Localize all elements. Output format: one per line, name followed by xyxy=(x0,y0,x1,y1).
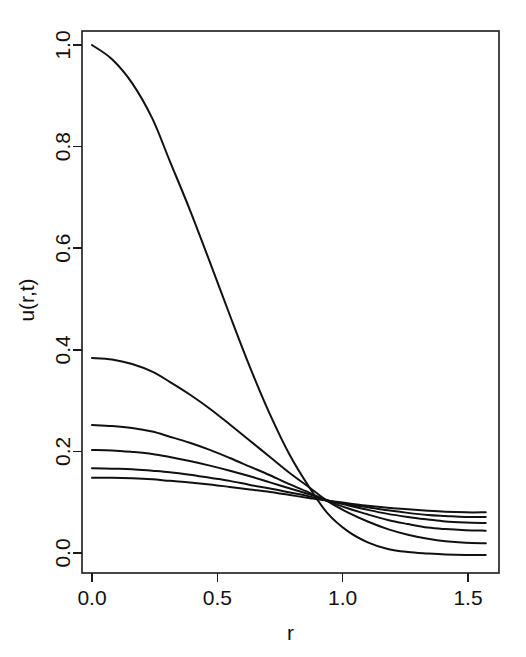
x-tick-label-1.5: 1.5 xyxy=(453,586,482,609)
y-tick-label-0.6: 0.6 xyxy=(51,234,74,263)
y-tick-label-0.0: 0.0 xyxy=(51,538,74,567)
y-axis-tick-labels: 0.00.20.40.60.81.0 xyxy=(51,30,74,567)
x-axis-title: r xyxy=(287,621,294,644)
x-axis-tick-labels: 0.00.51.01.5 xyxy=(77,586,482,609)
x-tick-label-0.5: 0.5 xyxy=(203,586,232,609)
x-tick-label-1.0: 1.0 xyxy=(328,586,357,609)
plot-canvas: 0.00.51.01.5 0.00.20.40.60.81.0 r u(r,t) xyxy=(0,0,526,657)
x-axis-ticks xyxy=(92,573,468,582)
y-tick-label-0.2: 0.2 xyxy=(51,437,74,466)
y-tick-label-1.0: 1.0 xyxy=(51,30,74,59)
chart-figure: 0.00.51.01.5 0.00.20.40.60.81.0 r u(r,t) xyxy=(0,0,526,657)
y-axis-title: u(r,t) xyxy=(15,278,38,321)
series-line-t5 xyxy=(92,468,486,517)
x-tick-label-0.0: 0.0 xyxy=(77,586,106,609)
y-tick-label-0.8: 0.8 xyxy=(51,132,74,161)
series-group xyxy=(92,45,486,555)
y-tick-label-0.4: 0.4 xyxy=(51,335,74,365)
y-axis-ticks xyxy=(73,45,82,553)
series-line-t4 xyxy=(92,450,486,523)
